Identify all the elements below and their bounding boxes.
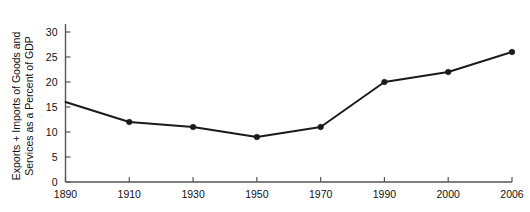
x-axis-ticks: 18901910193019501970199020002006 [54, 177, 524, 200]
x-tick-label-1970: 1970 [309, 188, 333, 200]
data-point-1910 [126, 119, 132, 125]
line-chart-plot: 051015202530 189019101930195019701990200… [0, 0, 530, 212]
y-tick-label-5: 5 [52, 151, 58, 163]
x-tick-label-1890: 1890 [54, 188, 78, 200]
y-tick-label-15: 15 [46, 101, 58, 113]
data-point-1930 [190, 124, 196, 130]
data-point-2006 [509, 49, 515, 55]
y-tick-label-25: 25 [46, 51, 58, 63]
data-point-2000 [445, 69, 451, 75]
chart-screenshot: Exports + Imports of Goods and Services … [0, 0, 530, 212]
y-tick-label-10: 10 [46, 126, 58, 138]
data-point-1970 [318, 124, 324, 130]
y-tick-label-0: 0 [52, 176, 58, 188]
x-tick-label-1990: 1990 [373, 188, 397, 200]
chart-axes [66, 24, 513, 182]
series-polyline [66, 52, 513, 137]
x-tick-label-2006: 2006 [500, 188, 524, 200]
x-tick-label-1910: 1910 [118, 188, 142, 200]
y-tick-label-30: 30 [46, 26, 58, 38]
data-point-1950 [254, 134, 260, 140]
data-point-1990 [382, 79, 388, 85]
y-axis-ticks: 051015202530 [46, 26, 71, 188]
data-series-line [66, 52, 513, 137]
x-tick-label-2000: 2000 [437, 188, 461, 200]
x-tick-label-1930: 1930 [181, 188, 205, 200]
x-tick-label-1950: 1950 [245, 188, 269, 200]
y-tick-label-20: 20 [46, 76, 58, 88]
